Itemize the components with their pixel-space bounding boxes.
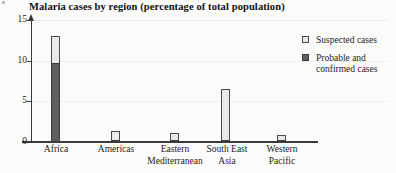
- chart-screenshot: Malaria cases by region (percentage of t…: [0, 0, 396, 173]
- gridline-15: [31, 20, 388, 21]
- legend: Suspected cases Probable and confirmed c…: [302, 35, 394, 82]
- legend-label-suspected: Suspected cases: [316, 35, 377, 45]
- x-label-line1: Africa: [29, 144, 83, 156]
- legend-item-suspected-cases[interactable]: Suspected cases: [302, 35, 394, 46]
- y-tick-15: 15: [0, 14, 27, 26]
- edge-artifact: [2, 1, 5, 4]
- bar-eastern-mediterranean[interactable]: [170, 133, 179, 142]
- bar-segment-probable-confirmed: [170, 140, 179, 142]
- bar-segment-probable-confirmed: [111, 140, 120, 142]
- legend-label-probable-line1: Probable and: [316, 53, 366, 63]
- y-tick-mark-5: [27, 101, 31, 102]
- x-label-line1: Western: [254, 144, 310, 156]
- bar-segment-probable-confirmed: [277, 140, 286, 142]
- bar-western-pacific[interactable]: [277, 135, 286, 142]
- x-label-line1: South East: [198, 144, 256, 156]
- y-axis-line: [31, 20, 32, 142]
- x-label-south-east-asia: South East Asia: [198, 144, 256, 167]
- bar-segment-probable-confirmed: [221, 140, 230, 142]
- y-tick-label-5: 5: [1, 95, 27, 105]
- bar-americas[interactable]: [111, 131, 120, 142]
- bar-segment-suspected: [221, 89, 230, 140]
- bar-segment-probable-confirmed: [51, 63, 60, 142]
- y-tick-label-15: 15: [1, 14, 27, 24]
- y-tick-10: 10: [0, 55, 27, 67]
- legend-swatch-icon-suspected: [302, 36, 309, 43]
- x-label-line2: Asia: [198, 156, 256, 168]
- y-tick-label-10: 10: [1, 55, 27, 65]
- y-tick-label-0: 0: [1, 136, 27, 146]
- y-tick-mark-0: [27, 142, 31, 143]
- y-axis-label-cropped: of: [0, 72, 8, 86]
- bar-segment-suspected: [51, 36, 60, 63]
- x-label-africa: Africa: [29, 144, 83, 156]
- y-tick-mark-15: [27, 20, 31, 21]
- y-tick-0: 0: [0, 136, 27, 148]
- bar-africa[interactable]: [51, 36, 60, 142]
- y-tick-5: 5: [0, 95, 27, 107]
- x-label-line2: Pacific: [254, 156, 310, 168]
- gridline-5: [31, 101, 388, 102]
- legend-item-probable-confirmed-cases[interactable]: Probable and confirmed cases: [302, 53, 394, 75]
- page-title: Malaria cases by region (percentage of t…: [29, 1, 285, 12]
- bar-segment-suspected: [111, 131, 120, 140]
- bar-segment-suspected: [170, 133, 179, 140]
- x-label-americas: Americas: [88, 144, 144, 156]
- legend-swatch-icon-probable-confirmed: [302, 54, 309, 61]
- bar-south-east-asia[interactable]: [221, 89, 230, 142]
- legend-label-probable-line2: confirmed cases: [316, 64, 394, 75]
- x-label-western-pacific: Western Pacific: [254, 144, 310, 167]
- y-tick-mark-10: [27, 61, 31, 62]
- x-label-line1: Americas: [88, 144, 144, 156]
